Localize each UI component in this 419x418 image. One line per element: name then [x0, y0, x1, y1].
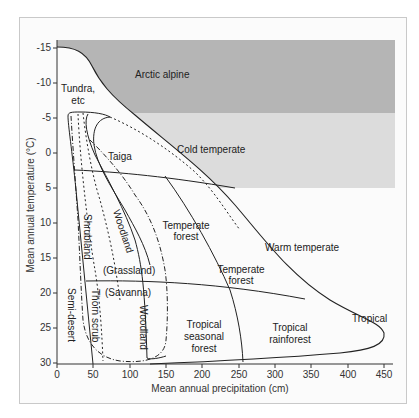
svg-text:10: 10 [40, 217, 52, 228]
svg-text:-5: -5 [42, 112, 51, 123]
biome-diagram: -15 -10 -5 0 5 10 15 20 25 30 0 50 100 1… [0, 0, 419, 418]
svg-text:400: 400 [340, 369, 357, 380]
x-axis-title: Mean annual precipitation (cm) [151, 383, 288, 394]
label-tropical: Tropical [352, 313, 387, 324]
label-temperate-forest-2a: Temperate [217, 264, 265, 275]
svg-text:350: 350 [303, 369, 320, 380]
label-tropical-seasonal-b: seasonal [184, 331, 224, 342]
svg-text:-15: -15 [37, 42, 52, 53]
label-thorn-scrub: Thorn scrub [90, 289, 101, 343]
label-shrubland: Shrubland [82, 214, 93, 260]
y-tick-labels: -15 -10 -5 0 5 10 15 20 25 30 [37, 42, 52, 368]
label-tropical-rainforest-b: rainforest [269, 334, 311, 345]
svg-text:300: 300 [267, 369, 284, 380]
label-temperate-forest-1a: Temperate [162, 220, 210, 231]
label-temperate-forest-2b: forest [228, 275, 253, 286]
label-temperate-forest-1b: forest [173, 231, 198, 242]
label-woodland-lower: Woodland [138, 305, 149, 350]
label-cold-temperate: Cold temperate [177, 144, 246, 155]
label-arctic-alpine: Arctic alpine [135, 69, 190, 80]
label-savanna: (Savanna) [105, 287, 151, 298]
label-tropical-seasonal-c: forest [191, 343, 216, 354]
label-warm-temperate: Warm temperate [265, 242, 340, 253]
svg-text:-10: -10 [37, 77, 52, 88]
y-axis-title: Mean annual temperature (°C) [25, 137, 36, 272]
svg-text:250: 250 [231, 369, 248, 380]
svg-text:50: 50 [87, 369, 99, 380]
svg-text:5: 5 [45, 182, 51, 193]
x-tick-labels: 0 50 100 150 200 250 300 350 400 450 [54, 369, 393, 380]
svg-text:25: 25 [40, 322, 52, 333]
y-ticks [53, 48, 57, 363]
label-grassland: (Grassland) [103, 265, 155, 276]
label-tropical-seasonal-a: Tropical [186, 319, 221, 330]
svg-text:30: 30 [40, 357, 52, 368]
svg-text:450: 450 [376, 369, 393, 380]
svg-text:100: 100 [122, 369, 139, 380]
label-semi-desert: Semi-desert [66, 288, 77, 342]
svg-text:150: 150 [158, 369, 175, 380]
svg-text:0: 0 [54, 369, 60, 380]
svg-text:15: 15 [40, 252, 52, 263]
label-tundra: Tundra, [61, 83, 95, 94]
label-taiga: Taiga [108, 151, 132, 162]
svg-text:200: 200 [194, 369, 211, 380]
svg-text:0: 0 [45, 147, 51, 158]
label-tundra-etc: etc [71, 95, 84, 106]
svg-text:20: 20 [40, 287, 52, 298]
label-tropical-rainforest-a: Tropical [272, 322, 307, 333]
